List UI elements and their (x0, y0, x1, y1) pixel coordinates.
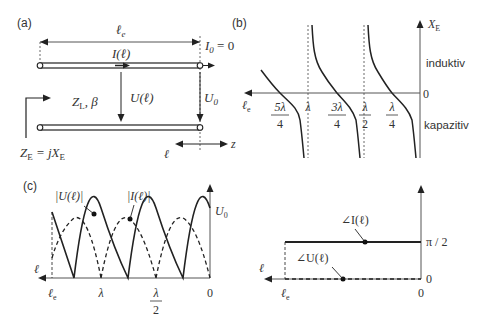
b-tick-5lambda-4: 5λ 4 (271, 100, 289, 131)
d-tick-pi-half: π / 2 (426, 235, 447, 249)
line-params-label: ZL, β (72, 94, 98, 111)
reactance-curve-1 (261, 70, 304, 158)
z-direction-arrow-icon (220, 141, 228, 148)
svg-text:λ: λ (152, 286, 158, 300)
c-u0-label: U0 (215, 204, 228, 220)
input-impedance-label: ZE = jXE (20, 145, 66, 162)
svg-text:4: 4 (389, 117, 395, 131)
z-axis-label: z (230, 137, 236, 151)
panel-a-transmission-line: (a) ℓe I(ℓ) I0 = 0 U(ℓ) U0 ZL, β (17, 16, 236, 162)
b-x-axis-label: ℓe (242, 98, 251, 114)
terminal-bottom-left (37, 125, 43, 131)
i-leader-line (130, 205, 134, 219)
b-y-axis-arrow-icon (417, 20, 424, 28)
i-phase-leader (355, 229, 365, 242)
svg-text:5λ: 5λ (274, 100, 285, 114)
svg-text:λ: λ (388, 100, 394, 114)
c-y-axis-arrow-icon (207, 184, 214, 192)
b-tick-lambda-4: λ 4 (386, 100, 398, 131)
svg-text:λ: λ (304, 100, 310, 114)
input-reference-bracket (26, 98, 44, 138)
panel-b-label: (b) (232, 16, 247, 30)
region-inductive: induktiv (426, 57, 465, 69)
c-x-axis-label: ℓ (34, 262, 39, 276)
c-tick-zero: 0 (207, 286, 213, 300)
c-x-axis-arrow-icon (38, 275, 46, 282)
region-capacitive: kapazitiv (424, 119, 469, 131)
terminal-bottom-right (197, 125, 203, 131)
b-tick-3lambda-4: 3λ 4 (328, 100, 346, 131)
u-phase-leader (332, 267, 343, 279)
d-tick-zero-x: 0 (418, 286, 424, 300)
d-tick-zero-y: 0 (426, 272, 432, 286)
reactance-curve-3 (368, 25, 416, 158)
i-magnitude-label: |I(ℓ)| (127, 189, 151, 203)
input-arrowhead-icon (43, 95, 51, 102)
u-magnitude-label: |U(ℓ)| (55, 189, 83, 203)
arrowhead-left-icon (40, 39, 48, 46)
svg-text:4: 4 (334, 117, 340, 131)
arrowhead-right-icon (192, 39, 200, 46)
u-magnitude-curve (52, 197, 210, 278)
svg-text:4: 4 (277, 117, 283, 131)
u-phase-label: ∠U(ℓ) (296, 251, 328, 265)
length-label: ℓe (116, 22, 125, 39)
svg-text:2: 2 (362, 117, 368, 131)
b-tick-lambda: λ (304, 100, 310, 114)
terminal-top-right (197, 63, 203, 69)
panel-phase: ℓ ∠I(ℓ) ∠U(ℓ) π / 2 0 ℓe 0 (259, 185, 447, 302)
d-x-axis-arrow-icon (264, 276, 272, 283)
b-x-axis-arrow-icon (244, 90, 252, 97)
b-origin-label: 0 (423, 87, 429, 101)
c-tick-lambda-2: λ 2 (150, 286, 162, 317)
voltage-label: U(ℓ) (130, 90, 153, 105)
b-y-axis-label: XE (427, 17, 440, 33)
svg-text:2: 2 (153, 303, 159, 317)
u0-label: U0 (204, 90, 218, 107)
d-tick-le: ℓe (281, 286, 290, 302)
current-label: I(ℓ) (111, 46, 130, 61)
panel-a-label: (a) (17, 16, 32, 30)
panel-c-label: (c) (23, 179, 37, 193)
d-x-axis-label: ℓ (259, 261, 264, 275)
ell-axis-label: ℓ (164, 147, 169, 161)
u0-arrowhead-icon (197, 114, 204, 122)
d-y-axis-arrow-icon (418, 185, 425, 193)
bottom-conductor (40, 125, 200, 130)
voltage-arrowhead-icon (118, 114, 125, 122)
reactance-curve-2 (312, 25, 360, 158)
ell-direction-arrow-icon (175, 141, 183, 148)
i-phase-label: ∠I(ℓ) (341, 213, 369, 227)
panel-c-magnitude: (c) ℓ U0 |U(ℓ)| |I(ℓ)| ℓe λ λ 2 0 (23, 179, 228, 317)
c-tick-le: ℓe (48, 286, 57, 302)
c-tick-lambda: λ (97, 286, 103, 300)
i0-arrowhead-icon (208, 63, 215, 69)
svg-text:λ: λ (361, 100, 367, 114)
terminal-top-left (37, 63, 43, 69)
i0-label: I0 = 0 (204, 38, 234, 55)
svg-text:3λ: 3λ (330, 100, 342, 114)
panel-b-input-reactance: (b) XE ℓe 0 induktiv kapazitiv 5λ 4 λ 3λ… (232, 16, 469, 158)
b-tick-lambda-2: λ 2 (359, 100, 371, 131)
figure: (a) ℓe I(ℓ) I0 = 0 U(ℓ) U0 ZL, β (0, 0, 485, 331)
